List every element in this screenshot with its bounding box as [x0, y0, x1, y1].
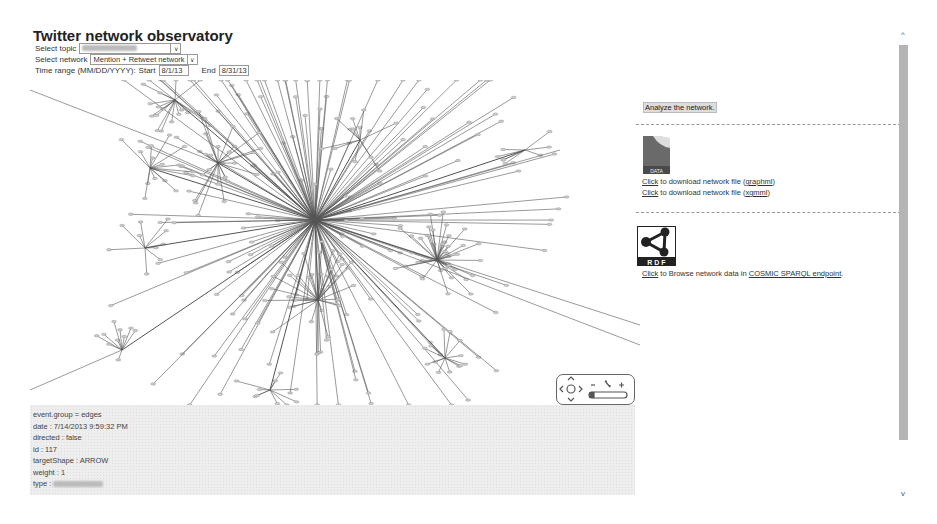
- page-title: Twitter network observatory: [33, 27, 233, 44]
- svg-text:DATA: DATA: [650, 168, 663, 174]
- end-date-input[interactable]: 8/31/13: [219, 65, 249, 76]
- download-graphml-link[interactable]: Click: [642, 177, 658, 186]
- scrollbar-thumb[interactable]: [899, 45, 908, 440]
- download-xgmml-link[interactable]: Click: [642, 188, 658, 197]
- download-graphml-row: Click to download network file (graphml): [642, 177, 775, 186]
- info-line-target-shape: targetShape : ARROW: [30, 455, 635, 467]
- data-file-icon: DATA: [643, 136, 670, 174]
- pan-up-icon[interactable]: [568, 377, 574, 380]
- time-range-row: Time range (MM/DD/YYYY): Start 8/1/13 En…: [35, 65, 249, 76]
- network-row: Select network Mention + Retweet network…: [35, 54, 198, 65]
- zoom-slider-handle[interactable]: [590, 393, 594, 398]
- topic-label: Select topic: [35, 44, 76, 53]
- start-label: Start: [139, 66, 156, 75]
- scroll-down-arrow-icon[interactable]: v: [898, 489, 908, 498]
- network-label: Select network: [35, 55, 87, 64]
- browse-click-link[interactable]: Click: [642, 269, 658, 278]
- rdf-icon: R D F: [637, 226, 676, 266]
- start-date-input[interactable]: 8/1/13: [159, 65, 189, 76]
- info-line-date: date : 7/14/2013 9:59:32 PM: [30, 421, 635, 433]
- analyze-network-button[interactable]: Analyze the network.: [643, 102, 717, 113]
- pan-control[interactable]: [560, 377, 582, 401]
- pan-center-icon[interactable]: [567, 385, 575, 393]
- info-line-type: type :: [30, 478, 635, 490]
- network-select[interactable]: Mention + Retweet network ∨: [90, 54, 197, 65]
- info-line-id: id : 117: [30, 444, 635, 456]
- graph-navigation-widget: [556, 374, 635, 405]
- vertical-scrollbar[interactable]: ^ v: [897, 28, 909, 500]
- download-xgmml-row: Click to download network file (xgmml): [642, 188, 770, 197]
- type-value-redacted: [53, 481, 103, 487]
- pan-right-icon[interactable]: [579, 386, 582, 392]
- graphml-format-link[interactable]: graphml: [745, 177, 772, 186]
- zoom-in-icon[interactable]: [619, 383, 624, 388]
- info-line-directed: directed : false: [30, 432, 635, 444]
- svg-text:R D F: R D F: [647, 259, 666, 266]
- divider: [636, 212, 901, 213]
- time-range-label: Time range (MM/DD/YYYY):: [35, 66, 136, 75]
- topic-row: Select topic ∨: [35, 43, 181, 54]
- topic-select[interactable]: ∨: [79, 43, 181, 54]
- chevron-down-icon[interactable]: ∨: [170, 44, 180, 53]
- topic-value-redacted: [82, 45, 137, 51]
- pan-left-icon[interactable]: [560, 386, 563, 392]
- sparql-endpoint-link[interactable]: COSMIC SPARQL endpoint: [749, 269, 842, 278]
- divider: [636, 124, 901, 125]
- chevron-down-icon[interactable]: ∨: [187, 55, 197, 64]
- xgmml-format-link[interactable]: xgmml: [745, 188, 767, 197]
- pan-down-icon[interactable]: [568, 398, 574, 401]
- selection-info-panel: event.group = edges date : 7/14/2013 9:5…: [30, 405, 635, 495]
- info-line-weight: weight : 1: [30, 467, 635, 479]
- browse-sparql-row: Click to Browse network data in COSMIC S…: [642, 269, 843, 278]
- info-line-event-group: event.group = edges: [30, 409, 635, 421]
- zoom-slider[interactable]: [589, 392, 627, 398]
- zoom-fit-icon[interactable]: [605, 381, 610, 387]
- network-graph-canvas[interactable]: [30, 80, 640, 405]
- end-label: End: [202, 66, 216, 75]
- scroll-up-arrow-icon[interactable]: ^: [898, 30, 908, 39]
